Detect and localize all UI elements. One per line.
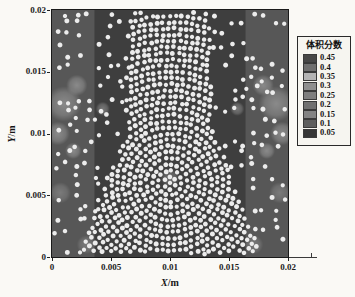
- y-tick-label: 0.02: [2, 5, 46, 16]
- legend-color-swatch: [303, 54, 317, 63]
- legend-entry-label: 0.45: [320, 53, 335, 62]
- y-tick-mark: [47, 72, 50, 73]
- plot-area: [51, 9, 289, 258]
- y-tick-label: 0.01: [2, 128, 46, 139]
- x-axis-extension-tick: [311, 253, 312, 258]
- x-tick-label: 0.02: [280, 262, 296, 273]
- legend-entries: 0.450.40.350.30.250.20.150.10.05: [303, 53, 350, 138]
- x-axis-unit: /m: [168, 277, 179, 288]
- legend-entry-label: 0.05: [320, 128, 335, 137]
- x-tick-label: 0.01: [162, 262, 178, 273]
- x-tick-label: 0.015: [219, 262, 239, 273]
- legend-color-swatch: [303, 119, 317, 128]
- x-tick-mark: [52, 258, 53, 261]
- y-tick-label: 0.005: [2, 190, 46, 201]
- legend-color-swatch: [303, 129, 317, 138]
- legend-color-swatch: [303, 82, 317, 91]
- x-tick-mark: [288, 258, 289, 261]
- y-tick-mark: [47, 10, 50, 11]
- legend-color-swatch: [303, 72, 317, 81]
- y-tick-label: 0.015: [2, 66, 46, 77]
- legend-color-swatch: [303, 91, 317, 100]
- legend-color-swatch: [303, 101, 317, 110]
- figure: X/m Y/m 体积分数 0.450.40.350.30.250.20.150.…: [0, 0, 355, 297]
- legend: 体积分数 0.450.40.350.30.250.20.150.10.05: [297, 36, 351, 146]
- legend-entry-label: 0.2: [320, 100, 331, 109]
- legend-entry: 0.2: [303, 100, 350, 109]
- x-tick-mark: [111, 258, 112, 261]
- legend-color-swatch: [303, 63, 317, 72]
- legend-entry: 0.05: [303, 128, 350, 137]
- x-tick-mark: [229, 258, 230, 261]
- y-tick-mark: [47, 257, 50, 258]
- x-tick-label: 0: [50, 262, 55, 273]
- x-axis-extension-line: [289, 257, 317, 258]
- x-axis-variable: X: [161, 277, 168, 288]
- legend-entry: 0.45: [303, 53, 350, 62]
- x-axis-title: X/m: [161, 277, 179, 288]
- legend-entry-label: 0.3: [320, 81, 331, 90]
- particle-field-canvas: [52, 10, 288, 257]
- y-tick-mark: [47, 195, 50, 196]
- legend-title: 体积分数: [298, 39, 350, 51]
- y-tick-mark: [47, 134, 50, 135]
- x-tick-mark: [170, 258, 171, 261]
- x-tick-label: 0.005: [101, 262, 121, 273]
- legend-color-swatch: [303, 110, 317, 119]
- y-tick-label: 0: [2, 252, 46, 263]
